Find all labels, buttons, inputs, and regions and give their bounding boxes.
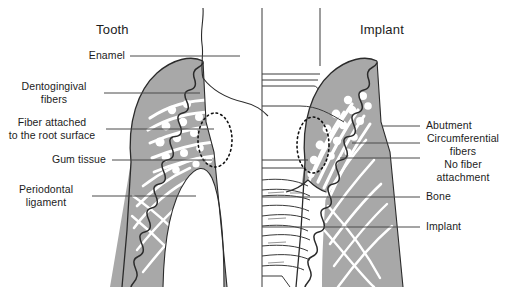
panel-title-implant: Implant	[360, 22, 404, 37]
label-dentogingival-fibers: Dentogingival fibers	[8, 80, 100, 105]
label-periodontal-ligament: Periodontal ligament	[6, 183, 86, 208]
panel-title-tooth: Tooth	[96, 22, 129, 37]
label-implant: Implant	[426, 220, 496, 233]
label-gum-tissue: Gum tissue	[10, 153, 106, 166]
label-abutment: Abutment	[426, 119, 506, 132]
label-enamel: Enamel	[10, 49, 125, 62]
tooth-crown-enamel	[201, 8, 268, 116]
implant-soft-and-hard-tissue	[286, 58, 403, 287]
label-no-fiber-attachment: No fiber attachment	[420, 158, 506, 183]
label-bone: Bone	[426, 190, 496, 203]
dental-implant-comparison-figure: Tooth Implant Enamel Dentogingival fiber…	[0, 0, 508, 287]
left-panel-tooth	[110, 8, 268, 287]
right-panel-implant	[262, 8, 403, 287]
label-circumferential-fibers: Circumferential fibers	[420, 132, 506, 157]
label-fiber-attached-root-surface: Fiber attached to the root surface	[2, 116, 102, 141]
